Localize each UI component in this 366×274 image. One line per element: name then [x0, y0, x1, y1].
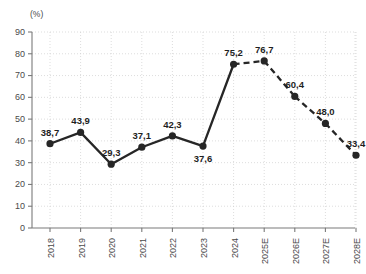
y-tick-label: 0 — [20, 223, 25, 233]
x-tick-label: 2024 — [230, 238, 240, 258]
data-point-marker — [138, 144, 145, 151]
y-tick-label: 40 — [15, 136, 25, 146]
data-point-marker — [261, 57, 268, 64]
data-point-label: 38,7 — [41, 127, 60, 138]
chart-canvas: 0102030405060708090(%)201820192020202120… — [0, 0, 366, 274]
data-point-marker — [322, 120, 329, 127]
data-point-marker — [77, 129, 84, 136]
y-tick-label: 90 — [15, 27, 25, 37]
x-tick-label: 2022 — [168, 238, 178, 258]
y-tick-label: 50 — [15, 114, 25, 124]
data-point-label: 48,0 — [316, 106, 335, 117]
data-point-label: 42,3 — [163, 119, 182, 130]
x-tick-label: 2027E — [321, 238, 331, 264]
data-point-label: 33,4 — [347, 138, 366, 149]
data-point-label: 37,1 — [133, 130, 152, 141]
data-point-label: 75,2 — [224, 47, 243, 58]
data-point-marker — [352, 152, 359, 159]
y-tick-label: 70 — [15, 70, 25, 80]
y-tick-label: 60 — [15, 92, 25, 102]
data-point-marker — [46, 140, 53, 147]
series-segment — [203, 64, 234, 146]
data-point-label: 60,4 — [286, 79, 305, 90]
data-point-marker — [291, 93, 298, 100]
series-segment — [234, 61, 265, 64]
y-axis-unit-label: (%) — [30, 9, 43, 19]
data-point-marker — [108, 161, 115, 168]
data-point-marker — [230, 61, 237, 68]
x-tick-label: 2019 — [77, 238, 87, 258]
x-tick-label: 2028E — [352, 238, 362, 264]
data-point-label: 37,6 — [194, 153, 213, 164]
x-tick-label: 2018 — [46, 238, 56, 258]
x-tick-label: 2023 — [199, 238, 209, 258]
data-point-marker — [169, 132, 176, 139]
y-tick-label: 30 — [15, 158, 25, 168]
data-point-label: 29,3 — [102, 147, 121, 158]
x-tick-label: 2026E — [291, 238, 301, 264]
y-tick-label: 80 — [15, 49, 25, 59]
x-tick-label: 2025E — [260, 238, 270, 264]
line-chart: 0102030405060708090(%)201820192020202120… — [0, 0, 366, 274]
y-tick-label: 20 — [15, 179, 25, 189]
data-point-label: 76,7 — [255, 44, 274, 55]
x-tick-label: 2020 — [107, 238, 117, 258]
x-tick-label: 2021 — [138, 238, 148, 258]
y-tick-label: 10 — [15, 201, 25, 211]
data-point-label: 43,9 — [71, 115, 90, 126]
data-point-marker — [199, 143, 206, 150]
